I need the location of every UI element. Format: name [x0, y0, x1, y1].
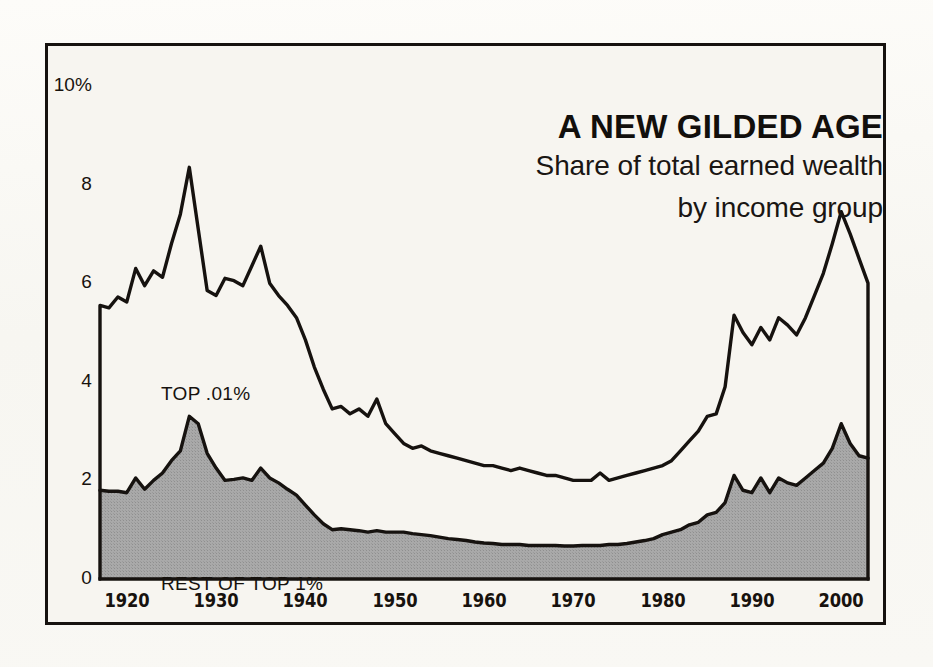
x-tick-1960: 1960	[450, 589, 519, 611]
x-tick-1990: 1990	[718, 589, 787, 611]
y-tick-2: 2	[28, 468, 92, 490]
chart-page: 10% 8 6 4 2 0 1920 1930 1940 1950 1960 1…	[0, 0, 933, 667]
chart-subtitle-line2: by income group	[363, 192, 883, 224]
y-tick-4: 4	[28, 370, 92, 392]
y-tick-6: 6	[28, 271, 92, 293]
series-annotation-top-01: TOP .01%	[161, 383, 250, 405]
x-tick-1980: 1980	[628, 589, 697, 611]
chart-title: A NEW GILDED AGE	[363, 108, 883, 146]
y-tick-0: 0	[28, 567, 92, 589]
chart-frame: 10% 8 6 4 2 0 1920 1930 1940 1950 1960 1…	[45, 43, 886, 625]
y-tick-10: 10%	[28, 74, 92, 96]
x-tick-1970: 1970	[539, 589, 608, 611]
x-tick-2000: 2000	[807, 589, 876, 611]
x-tick-1920: 1920	[92, 589, 161, 611]
y-tick-8: 8	[28, 173, 92, 195]
series-annotation-rest-of-top-1: REST OF TOP 1%	[161, 573, 323, 595]
chart-subtitle-line1: Share of total earned wealth	[363, 150, 883, 182]
x-tick-1950: 1950	[360, 589, 429, 611]
